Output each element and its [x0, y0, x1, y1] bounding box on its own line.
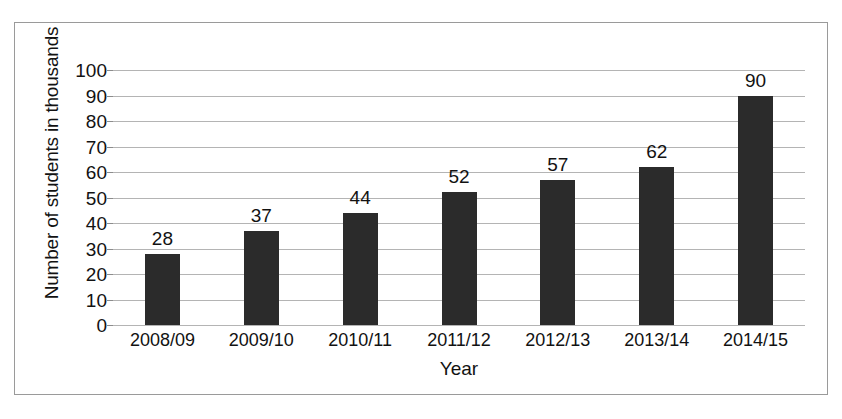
x-axis-tick-label: 2013/14 — [602, 330, 712, 350]
y-axis-tick-label: 10 — [55, 291, 107, 310]
y-axis-tick-label: 100 — [55, 61, 107, 80]
y-axis-tick-label: 50 — [55, 189, 107, 208]
x-axis-title: Year — [113, 358, 805, 380]
x-axis-tick-label: 2012/13 — [503, 330, 613, 350]
y-axis-tick-label: 40 — [55, 214, 107, 233]
y-axis-tick-label: 90 — [55, 87, 107, 106]
y-axis-tick-label: 60 — [55, 163, 107, 182]
y-axis-tick-label: 80 — [55, 112, 107, 131]
x-axis-tick-label: 2014/15 — [701, 330, 811, 350]
y-axis-tick-labels: 1009080706050403020100 — [55, 70, 107, 325]
x-axis-tick-label: 2009/10 — [206, 330, 316, 350]
chart-figure: Number of students in thousands 10090807… — [0, 0, 842, 419]
y-axis-tick-label: 70 — [55, 138, 107, 157]
x-axis-tick-label: 2010/11 — [305, 330, 415, 350]
x-axis-tick-label: 2008/09 — [107, 330, 217, 350]
x-axis-tick-labels: 2008/092009/102010/112011/122012/132013/… — [113, 0, 805, 360]
x-axis-tick-label: 2011/12 — [404, 330, 514, 350]
y-axis-tick-label: 30 — [55, 240, 107, 259]
y-axis-tick-label: 0 — [55, 316, 107, 335]
y-axis-tick-label: 20 — [55, 265, 107, 284]
